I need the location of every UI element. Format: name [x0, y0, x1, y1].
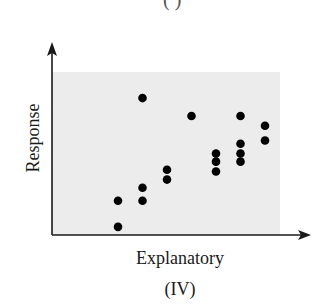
data-point	[236, 112, 245, 121]
data-point	[212, 167, 221, 176]
data-point	[261, 136, 270, 145]
data-point	[138, 196, 147, 205]
data-point	[114, 196, 123, 205]
data-point	[138, 94, 147, 103]
data-point	[187, 112, 196, 121]
data-point	[236, 139, 245, 148]
data-point	[261, 121, 270, 130]
data-point	[138, 183, 147, 192]
y-axis-label: Response	[23, 104, 44, 173]
data-point	[212, 149, 221, 158]
panel-label: (IV)	[165, 279, 196, 300]
data-point	[163, 175, 172, 184]
data-point	[114, 223, 123, 232]
x-axis-label: Explanatory	[136, 248, 224, 269]
data-point	[236, 157, 245, 166]
data-point	[163, 166, 172, 175]
plot-background	[52, 72, 280, 235]
data-point	[212, 157, 221, 166]
data-point	[236, 149, 245, 158]
